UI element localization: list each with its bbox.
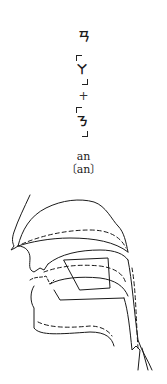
component-symbol-2: ㄋ — [76, 116, 88, 128]
bracket-close — [82, 131, 88, 137]
upper-lip — [18, 246, 48, 272]
vocal-tract-diagram — [0, 180, 167, 384]
plus-sign: + — [0, 90, 167, 102]
larynx — [124, 298, 148, 370]
nose-outline — [11, 195, 30, 250]
oral-roof — [48, 250, 128, 264]
velum-dashed — [22, 230, 126, 248]
ipa-transcription: 〔an〕 — [0, 163, 167, 176]
component-bracket-2: ㄋ — [76, 107, 88, 137]
bracket-open — [76, 107, 82, 113]
vowel-quadrilateral — [64, 258, 110, 290]
component-symbol-1: ㄚ — [76, 64, 88, 76]
zhuyin-symbol: ㄢ — [0, 30, 167, 44]
hard-palate — [18, 238, 128, 252]
bracket-open — [76, 55, 82, 61]
component-bracket-1: ㄚ — [76, 55, 88, 85]
teeth-dashed — [30, 276, 54, 284]
bracket-close — [82, 79, 88, 85]
lower-lip-chin — [31, 286, 114, 346]
tongue-body — [50, 277, 128, 296]
pinyin-label: an — [0, 150, 167, 163]
lower-jaw-line — [54, 290, 124, 300]
nasal-cavity-outline — [18, 200, 128, 252]
